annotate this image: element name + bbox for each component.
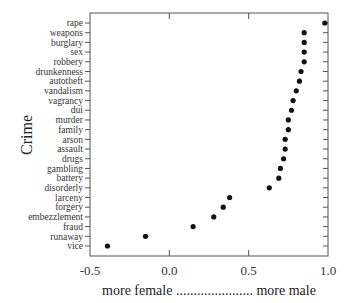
y-tick-label: gambling <box>47 164 83 174</box>
x-tick-label: -0.5 <box>80 263 101 278</box>
data-point <box>302 59 307 64</box>
y-tick-label: sex <box>70 47 83 57</box>
y-tick-label: burglary <box>51 38 83 48</box>
y-tick-label: fraud <box>63 222 83 232</box>
data-point <box>191 224 196 229</box>
data-point <box>286 117 291 122</box>
x-axis: -0.50.00.51.0 <box>80 13 336 278</box>
y-tick-label: murder <box>56 115 84 125</box>
y-axis-title: Crime <box>18 115 35 155</box>
y-axis: rapeweaponsburglarysexrobberydrunkenness… <box>28 18 328 251</box>
y-tick-label: battery <box>57 173 84 183</box>
data-point <box>294 88 299 93</box>
x-axis-label: more female ...................... more … <box>102 283 316 298</box>
data-point <box>322 20 327 25</box>
data-points <box>105 20 328 248</box>
x-tick-label: 1.0 <box>320 263 336 278</box>
data-point <box>298 69 303 74</box>
data-point <box>289 108 294 113</box>
data-point <box>211 214 216 219</box>
y-tick-label: disorderly <box>44 183 83 193</box>
plot-frame <box>90 13 328 256</box>
y-tick-label: embezzlement <box>28 212 83 222</box>
x-tick-label: 0.5 <box>241 263 257 278</box>
data-point <box>281 156 286 161</box>
y-tick-label: family <box>58 125 83 135</box>
y-tick-label: runaway <box>50 232 83 242</box>
y-tick-label: dui <box>71 105 84 115</box>
y-tick-label: drunkenness <box>36 67 84 77</box>
y-tick-label: rape <box>67 18 83 28</box>
y-tick-label: forgery <box>55 202 83 212</box>
x-tick-label: 0.0 <box>161 263 177 278</box>
data-point <box>302 40 307 45</box>
data-point <box>290 98 295 103</box>
y-tick-label: larceny <box>55 193 83 203</box>
y-tick-label: vagrancy <box>48 96 83 106</box>
y-tick-label: assault <box>57 144 83 154</box>
data-point <box>283 146 288 151</box>
data-point <box>267 185 272 190</box>
data-point <box>283 137 288 142</box>
data-point <box>302 30 307 35</box>
dot-plot-chart: rapeweaponsburglarysexrobberydrunkenness… <box>0 0 354 303</box>
y-tick-label: vandalism <box>44 86 84 96</box>
data-point <box>143 234 148 239</box>
y-tick-label: arson <box>62 135 83 145</box>
data-point <box>286 127 291 132</box>
data-point <box>302 49 307 54</box>
data-point <box>105 243 110 248</box>
y-tick-label: robbery <box>53 57 83 67</box>
y-tick-label: autotheft <box>49 76 83 86</box>
data-point <box>278 166 283 171</box>
data-point <box>227 195 232 200</box>
data-point <box>276 176 281 181</box>
data-point <box>297 79 302 84</box>
y-tick-label: vice <box>67 241 83 251</box>
y-tick-label: weapons <box>50 28 84 38</box>
data-point <box>221 205 226 210</box>
y-tick-label: drugs <box>62 154 83 164</box>
